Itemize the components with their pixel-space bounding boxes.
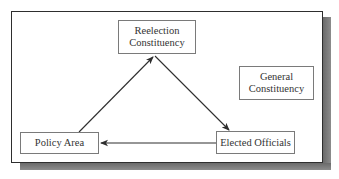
node-general-line1: General — [249, 71, 304, 83]
node-general-constituency: General Constituency — [239, 66, 314, 100]
node-policy-area: Policy Area — [20, 132, 99, 154]
node-general-line2: Constituency — [249, 83, 304, 95]
node-reelection-constituency: Reelection Constituency — [118, 20, 196, 54]
frame-shadow-bottom — [20, 163, 331, 170]
node-elected-officials: Elected Officials — [216, 131, 295, 154]
node-policy-label: Policy Area — [35, 137, 84, 149]
frame-shadow-right — [323, 17, 331, 170]
node-officials-label: Elected Officials — [220, 137, 291, 149]
node-reelection-line2: Constituency — [129, 37, 184, 49]
node-reelection-line1: Reelection — [129, 25, 184, 37]
